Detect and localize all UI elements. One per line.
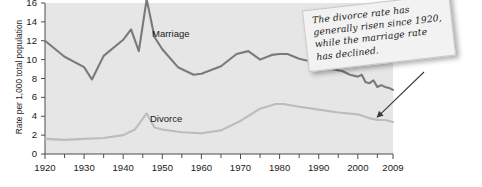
- x-tick-label: 1990: [299, 162, 339, 173]
- x-tick-label: 1970: [221, 162, 261, 173]
- x-tick-label: 1940: [103, 162, 143, 173]
- divorce-series-label: Divorce: [150, 113, 182, 124]
- x-tick-label: 1920: [25, 162, 65, 173]
- chart-container: 0246810121416 19201930194019501960197019…: [0, 0, 482, 187]
- y-axis-label: Rate per 1,000 total population: [14, 2, 24, 152]
- marriage-series-label: Marriage: [152, 28, 190, 39]
- x-tick-label: 1950: [142, 162, 182, 173]
- x-tick-label: 1980: [260, 162, 300, 173]
- x-tick-label: 1960: [181, 162, 221, 173]
- x-tick-label: 1930: [64, 162, 104, 173]
- x-tick-label: 2009: [373, 162, 413, 173]
- callout-text: The divorce rate has generally risen sin…: [311, 0, 448, 63]
- x-tick-label: 2000: [338, 162, 378, 173]
